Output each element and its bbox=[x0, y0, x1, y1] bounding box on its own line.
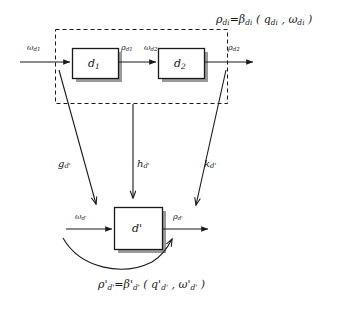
label-omega-dprime: ωd' bbox=[75, 213, 87, 222]
mapping-arrow-k-label: kd' bbox=[204, 159, 216, 170]
mapping-arrow-g-label: gd' bbox=[58, 159, 71, 170]
label-omega-d1: ωd1 bbox=[27, 44, 40, 53]
label-rho-d1: ρd1 bbox=[121, 44, 133, 53]
bottom-formula: ρ'd'=β'd' ( q'd' , ω'd' ) bbox=[98, 279, 205, 291]
block-dprime-label: d' bbox=[132, 222, 142, 235]
diagram-canvas bbox=[0, 0, 352, 309]
block-diagram: ρdi=βdi ( qdi , ωdi ) ωd1 ρd1 ωd2 ρd2 d1… bbox=[0, 0, 352, 309]
label-rho-d2: ρd2 bbox=[228, 44, 240, 53]
block-d2-label: d2 bbox=[174, 57, 186, 71]
mapping-arrow-k-line bbox=[196, 70, 226, 205]
bottom-formula-text: ρ'd'=β'd' ( q'd' , ω'd' ) bbox=[98, 278, 205, 291]
block-d1-label: d1 bbox=[88, 57, 100, 71]
mapping-arrow-h-label: hd' bbox=[137, 159, 150, 170]
label-rho-dprime: ρd' bbox=[173, 213, 183, 222]
label-omega-d2: ωd2 bbox=[144, 44, 157, 53]
top-formula: ρdi=βdi ( qdi , ωdi ) bbox=[216, 14, 312, 26]
top-formula-text: ρdi=βdi ( qdi , ωdi ) bbox=[216, 13, 312, 26]
mapping-arrow-g-line bbox=[59, 70, 96, 204]
